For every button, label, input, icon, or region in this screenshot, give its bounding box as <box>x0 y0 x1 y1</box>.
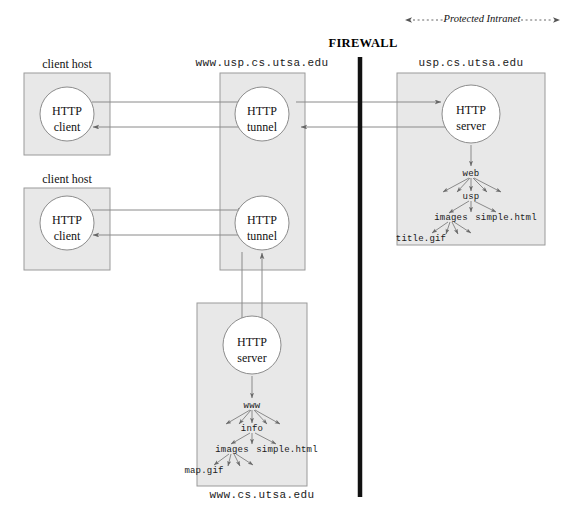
client-host-1-caption: client host <box>42 57 92 72</box>
diagram-canvas: Protected Intranet FIREWALL client host … <box>0 0 564 518</box>
public-tree-root: www <box>244 401 261 411</box>
tunnel-2-label-bottom: tunnel <box>247 229 277 244</box>
intranet-tree-title-gif: title.gif <box>396 234 446 244</box>
public-tree-level2: info <box>241 424 263 434</box>
tunnel-1-label-top: HTTP <box>247 104 277 119</box>
public-tree-simple-html: simple.html <box>256 445 318 455</box>
tunnel-1-label-bottom: tunnel <box>247 120 277 135</box>
intranet-tree-root: web <box>463 169 480 179</box>
intranet-tree-level2: usp <box>463 192 480 202</box>
public-tree-images: images <box>215 445 249 455</box>
client-host-1-node-label-top: HTTP <box>52 104 82 119</box>
intranet-server-host-caption: usp.cs.utsa.edu <box>418 57 523 69</box>
public-server-label-bottom: server <box>237 351 266 366</box>
client-host-2-node-label-top: HTTP <box>52 213 82 228</box>
diagram-vector-layer <box>0 0 564 518</box>
public-server-host-caption: www.cs.utsa.edu <box>209 489 314 501</box>
client-host-2-node-label-bottom: client <box>54 229 81 244</box>
intranet-server-label-bottom: server <box>456 119 485 134</box>
intranet-server-label-top: HTTP <box>456 103 486 118</box>
firewall-label: FIREWALL <box>328 36 397 51</box>
protected-intranet-label: Protected Intranet <box>444 13 521 24</box>
intranet-tree-images: images <box>434 213 468 223</box>
public-server-label-top: HTTP <box>237 335 267 350</box>
public-tree-map-gif: map.gif <box>184 466 223 476</box>
proxy-host-caption: www.usp.cs.utsa.edu <box>195 57 328 69</box>
client-host-2-caption: client host <box>42 172 92 187</box>
client-host-1-node-label-bottom: client <box>54 120 81 135</box>
intranet-tree-simple-html: simple.html <box>475 213 537 223</box>
tunnel-2-label-top: HTTP <box>247 213 277 228</box>
